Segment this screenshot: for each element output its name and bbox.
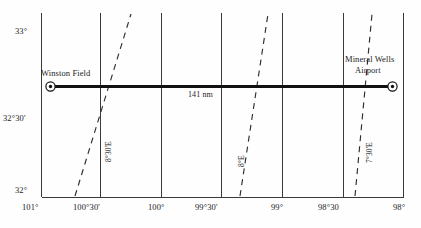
- isogonic-label-8-30E: 8°30'E: [105, 141, 114, 162]
- airport-marker-winston-field: [46, 82, 55, 91]
- place-label-mineral-wells-line1: Mineral Wells: [345, 55, 394, 65]
- isogonic-label-8E: 8°E: [238, 155, 247, 167]
- longitude-label-100: 100°: [148, 203, 165, 213]
- longitude-label-98: 98°: [393, 203, 405, 213]
- airport-marker-mineral-wells: [388, 82, 397, 91]
- longitude-label-101: 101°: [22, 203, 39, 213]
- navigation-chart: 33° 32°30' 32° 101° 100°30' 100° 99°30' …: [0, 0, 421, 228]
- longitude-label-99-30: 99°30': [195, 203, 218, 213]
- isogonic-lines: [75, 14, 372, 196]
- place-label-winston-field: Winston Field: [41, 69, 90, 79]
- place-label-mineral-wells-line2: Airport: [355, 66, 381, 76]
- isogonic-line-8-30E: [75, 14, 131, 196]
- latitude-label-32-30: 32°30': [3, 114, 26, 124]
- latitude-label-33: 33°: [15, 27, 27, 37]
- longitude-label-98-30: 98°30: [318, 203, 339, 213]
- isogonic-line-7-30E: [355, 14, 372, 196]
- route-distance-label: 141 nm: [188, 90, 213, 99]
- meridian-gridlines: [42, 13, 404, 197]
- longitude-label-100-30: 100°30': [73, 203, 100, 213]
- longitude-label-99: 99°: [271, 203, 283, 213]
- chart-canvas: [0, 0, 421, 228]
- isogonic-label-7-30E: 7°30'E: [366, 142, 375, 163]
- latitude-label-32: 32°: [15, 186, 27, 196]
- isogonic-line-8E: [240, 14, 268, 196]
